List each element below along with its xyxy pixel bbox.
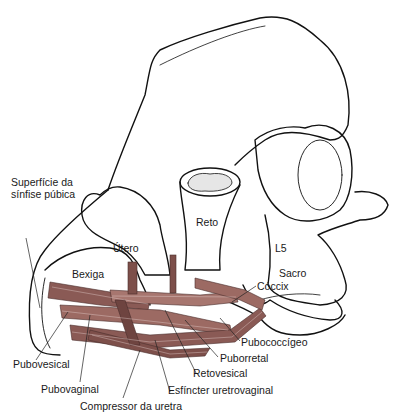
label-pubococcigeo: Pubococcígeo: [241, 336, 308, 348]
l5-outline: [255, 125, 352, 221]
label-reto: Reto: [196, 216, 218, 228]
label-puborretal: Puborretal: [220, 352, 268, 364]
label-retovesical: Retovesical: [193, 367, 247, 379]
label-coccix: Cóccix: [257, 280, 289, 292]
pelvic-floor-diagram: Superfície da sínfise púbica Útero Reto …: [0, 0, 408, 413]
label-pubovesical: Pubovesical: [13, 358, 70, 370]
label-superficie-sinfise-pubica: Superfície da sínfise púbica: [11, 176, 81, 200]
label-bexiga: Bexiga: [72, 268, 104, 280]
label-pubovaginal: Pubovaginal: [41, 383, 99, 395]
label-compressor-da-uretra: Compressor da uretra: [80, 400, 182, 412]
label-esfincter-uretrovaginal: Esfíncter uretrovaginal: [168, 384, 273, 396]
label-l5: L5: [275, 242, 287, 254]
uterus-outline: [82, 187, 170, 275]
label-sacro: Sacro: [279, 267, 306, 279]
anatomy-drawing: [0, 0, 408, 413]
ilium-outline: [108, 17, 349, 190]
label-utero: Útero: [113, 242, 139, 254]
